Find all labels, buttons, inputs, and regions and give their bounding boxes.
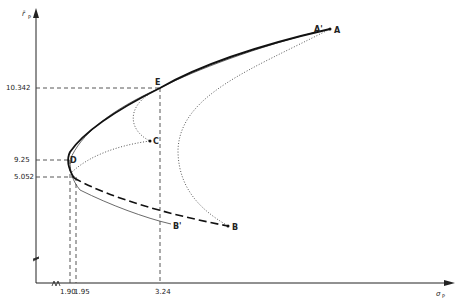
point-B-prime-label: B' [173,222,182,231]
point-E-label: E [155,78,160,87]
point-A-prime-label: A' [314,25,323,34]
y-axis-label-sub: P [28,14,31,20]
x-axis-arrow-icon [444,280,455,286]
guide-lines [36,88,160,283]
x-tick-195: 1.95 [74,288,90,296]
curve-dotted-ECD [72,95,150,172]
curve-efficient-frontier [68,29,330,178]
point-B-marker [227,225,230,228]
y-tick-925: 9.25 [14,156,30,164]
y-tick-10342: 10.342 [6,84,31,92]
point-A-label: A [334,26,341,35]
x-axis [36,280,455,286]
point-B-label: B [232,223,238,232]
portfolio-frontier-diagram: r̄ P σ P 10.342 9.25 5.052 1.90 1.95 3.2… [0,0,457,299]
x-axis-label: σ [436,290,441,298]
y-axis-label: r̄ [22,10,26,18]
curve-thin-solid [70,32,316,224]
point-D-label: D [70,156,77,165]
y-axis-arrow-icon [33,8,39,18]
point-C-label: C [153,137,159,146]
point-C-marker [149,140,152,143]
x-tick-324: 3.24 [155,288,171,296]
y-tick-5052: 5.052 [14,173,34,181]
point-A-marker [329,28,332,31]
x-axis-label-sub: P [442,293,445,299]
y-axis [33,8,39,283]
curve-dotted-AB [178,29,330,226]
